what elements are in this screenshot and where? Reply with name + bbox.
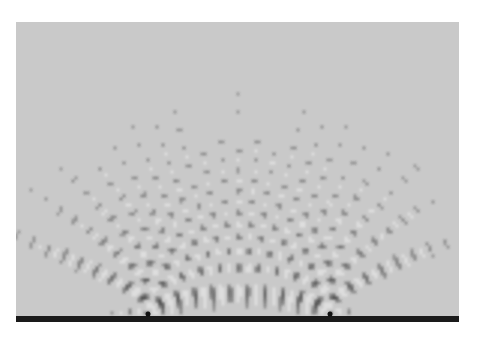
source-point-2 bbox=[328, 312, 333, 317]
interference-figure bbox=[0, 0, 477, 338]
source-point-1 bbox=[146, 312, 151, 317]
barrier-wall bbox=[16, 316, 459, 322]
